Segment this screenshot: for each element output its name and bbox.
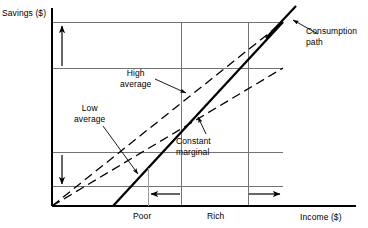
- annotation-high-average: High average: [120, 68, 151, 90]
- annotation-low-average: Low average: [74, 103, 105, 125]
- low-average-leader: [103, 126, 138, 174]
- x-tick-label-rich: Rich: [207, 211, 224, 222]
- x-tick-label-poor: Poor: [133, 211, 151, 222]
- x-axis-label: Income ($): [300, 212, 342, 223]
- annotation-constant-marginal: Constant marginal: [176, 136, 211, 158]
- constant-marginal-line: [113, 22, 283, 206]
- annotation-consumption-path: Consumption path: [306, 26, 357, 48]
- y-axis-label: Savings ($): [2, 8, 46, 19]
- savings-income-diagram: Savings ($) Income ($) Poor Rich High av…: [0, 0, 368, 228]
- constant-marginal-leader: [198, 117, 206, 134]
